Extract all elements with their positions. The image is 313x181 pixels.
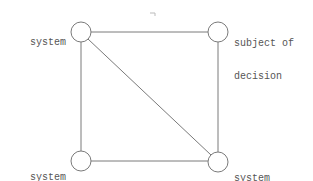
label-system: system — [10, 26, 66, 48]
node-subject-of-decision — [208, 22, 228, 42]
stray-mark — [150, 13, 155, 16]
label-system-designer: system designer — [4, 150, 66, 181]
label-system-user: system user — [234, 151, 270, 181]
edge-system-user — [88, 39, 211, 155]
label-designer-line1: system — [4, 172, 66, 181]
node-system — [71, 22, 91, 42]
label-system-line1: system — [30, 37, 66, 48]
label-subject-of-decision: subject of decision — [234, 16, 294, 93]
label-user-line1: system — [234, 173, 270, 181]
label-subject-line2: decision — [234, 71, 294, 82]
node-system-user — [208, 152, 228, 172]
node-system-designer — [71, 151, 91, 171]
label-subject-line1: subject of — [234, 38, 294, 49]
